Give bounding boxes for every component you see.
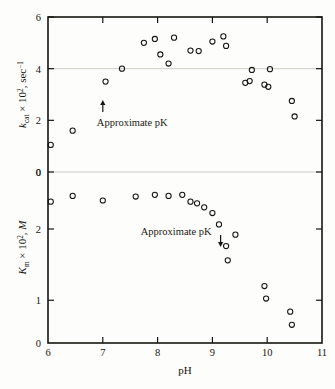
data-point-km-15 [262,283,267,288]
data-point-kcat-1 [70,128,75,133]
x-tick-label-8: 8 [155,347,160,358]
data-point-km-12 [224,244,229,249]
y-tick-label-kcat-2: 2 [36,115,41,126]
data-point-kcat-5 [152,36,157,41]
data-point-km-18 [289,322,294,327]
data-point-km-17 [288,309,293,314]
x-tick-label-10: 10 [262,347,273,358]
data-point-kcat-7 [166,61,171,66]
data-point-km-9 [202,205,207,210]
data-point-km-2 [100,198,105,203]
data-point-kcat-21 [292,114,297,119]
data-point-km-1 [70,193,75,198]
approximate-pk-arrow-upper [100,100,105,112]
x-tick-label-9: 9 [210,347,215,358]
data-point-km-7 [188,199,193,204]
svg-text:Km × 102, M: Km × 102, M [16,220,31,276]
figure-container: 6789101102460210Approximate pKApproximat… [0,0,335,389]
y-tick-label-km-3: 1 [36,295,41,306]
data-point-kcat-9 [188,48,193,53]
data-point-kcat-16 [249,67,254,72]
data-point-km-8 [194,201,199,206]
data-point-kcat-11 [210,39,215,44]
axis-frame [48,17,322,343]
data-point-kcat-2 [103,79,108,84]
data-point-km-6 [180,192,185,197]
data-point-kcat-13 [224,43,229,48]
data-point-kcat-12 [221,34,226,39]
data-point-km-16 [264,296,269,301]
y-tick-label-km-4: 0 [36,338,41,349]
y-axis-title-km: Km × 102, M [16,220,31,276]
y-axis-title-kcat: kcat × 102, sec−1 [16,61,31,128]
data-point-km-0 [48,199,53,204]
data-point-kcat-4 [141,40,146,45]
data-point-km-5 [166,193,171,198]
data-point-km-11 [216,222,221,227]
y-tick-label-kcat-4: 4 [36,64,42,75]
data-point-kcat-6 [158,52,163,57]
data-point-kcat-15 [247,78,252,83]
scatter-plot: 6789101102460210Approximate pKApproximat… [0,0,335,389]
data-point-kcat-10 [196,49,201,54]
approximate-pk-arrow-lower [218,235,223,247]
y-tick-label-km-1: 2 [36,224,41,235]
data-point-km-4 [152,192,157,197]
x-tick-label-7: 7 [100,347,105,358]
data-point-kcat-0 [48,142,53,147]
data-point-km-10 [210,210,215,215]
data-point-kcat-20 [289,98,294,103]
approximate-pk-label-lower: Approximate pK [141,226,212,237]
x-axis-title: pH [178,364,192,376]
y-tick-label-km-0: 0 [36,167,41,178]
x-tick-label-11: 11 [317,347,327,358]
x-tick-label-6: 6 [45,347,50,358]
data-point-kcat-8 [171,35,176,40]
data-point-km-14 [233,232,238,237]
y-tick-label-kcat-6: 6 [36,12,41,23]
data-point-km-13 [225,258,230,263]
data-point-kcat-19 [267,67,272,72]
svg-text:kcat × 102, sec−1: kcat × 102, sec−1 [16,61,31,128]
approximate-pk-label-upper: Approximate pK [97,117,168,128]
data-point-km-3 [133,194,138,199]
